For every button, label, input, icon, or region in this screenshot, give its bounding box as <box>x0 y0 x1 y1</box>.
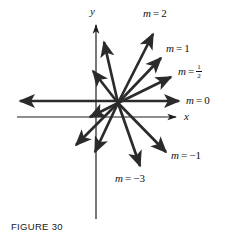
slope-label-m-half-equals: = <box>188 65 194 77</box>
ray-m2-down <box>95 103 118 152</box>
slope-label-m1-equals: = <box>176 42 182 54</box>
figure-30-container: y x m=2 m=1 m=12 m=0 m=−1 m=−3 FIGURE 30 <box>0 0 232 238</box>
slope-label-m-neg1: m=−1 <box>171 150 201 161</box>
slope-label-m0-var: m <box>186 94 194 106</box>
ray-m1-up <box>118 58 161 103</box>
slope-label-m2: m=2 <box>143 8 167 19</box>
slope-label-m-neg1-var: m <box>171 149 179 161</box>
slope-rays <box>20 34 179 166</box>
ray-m1-down <box>76 103 118 145</box>
slope-label-m2-value: 2 <box>161 7 167 19</box>
slope-label-m-neg1-equals: = <box>181 149 187 161</box>
slope-lines-diagram <box>0 0 232 238</box>
fraction-denominator: 2 <box>196 73 202 80</box>
slope-label-m0: m=0 <box>186 95 210 106</box>
slope-label-m1-var: m <box>166 42 174 54</box>
axis-lines <box>17 25 176 219</box>
slope-label-m-neg1-value: −1 <box>189 149 201 161</box>
slope-label-m-neg3-var: m <box>115 172 123 184</box>
slope-label-m1: m=1 <box>166 43 190 54</box>
slope-label-m0-value: 0 <box>204 94 210 106</box>
slope-label-m-neg3-value: −3 <box>133 172 145 184</box>
slope-label-m1-value: 1 <box>184 42 190 54</box>
slope-label-m0-equals: = <box>196 94 202 106</box>
x-axis-label: x <box>184 111 189 122</box>
slope-label-m-neg3: m=−3 <box>115 173 145 184</box>
slope-label-m2-var: m <box>143 7 151 19</box>
slope-label-m-half-fraction: 12 <box>196 64 202 81</box>
figure-caption: FIGURE 30 <box>11 221 63 232</box>
slope-label-m2-equals: = <box>153 7 159 19</box>
slope-label-m-half: m=12 <box>178 64 202 81</box>
ray-m2-up <box>118 34 153 103</box>
slope-label-m-half-var: m <box>178 65 186 77</box>
fraction-numerator: 1 <box>196 64 202 71</box>
y-axis-label: y <box>90 6 95 17</box>
slope-label-m-neg3-equals: = <box>125 172 131 184</box>
